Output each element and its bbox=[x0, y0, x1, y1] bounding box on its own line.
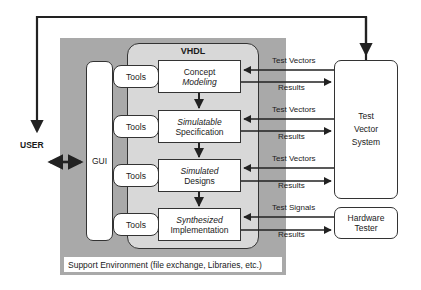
feedback-loop-arrow bbox=[37, 17, 366, 131]
connector-arrows bbox=[0, 0, 421, 290]
